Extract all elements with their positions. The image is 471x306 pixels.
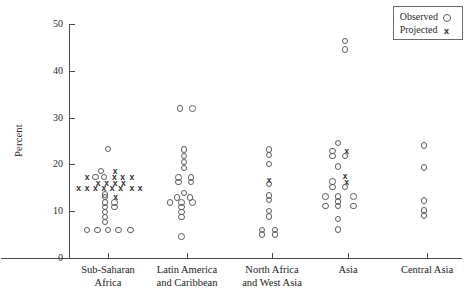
data-point-observed [189, 105, 196, 112]
data-point-observed [127, 227, 134, 234]
legend-entry-projected: Projected x [400, 23, 456, 36]
data-point-observed [188, 179, 195, 186]
data-point-observed [335, 216, 342, 223]
data-point-observed [259, 231, 266, 238]
y-axis-tick-label: 10 [25, 206, 63, 216]
x-axis-tick-label: Central Asia [379, 264, 471, 277]
data-point-observed [421, 197, 428, 204]
x-axis-tick-label: Latin America and Caribbean [139, 264, 235, 289]
data-point-observed [335, 203, 342, 210]
x-axis-tick [348, 253, 349, 258]
y-axis-tick [70, 164, 75, 165]
y-axis-tick-label: 50 [25, 19, 63, 29]
legend-label-projected: Projected [400, 24, 438, 35]
data-point-observed [177, 105, 184, 112]
x-axis-tick [187, 253, 188, 258]
data-point-projected: x [128, 184, 136, 192]
data-point-projected: x [108, 184, 116, 192]
data-point-observed [322, 203, 329, 210]
data-point-observed [105, 146, 112, 153]
data-point-observed [335, 140, 342, 147]
data-point-observed [342, 46, 349, 53]
data-point-observed [350, 203, 357, 210]
data-point-observed [175, 179, 182, 186]
data-point-observed [178, 214, 185, 221]
legend-symbol-circle-icon [438, 11, 456, 22]
data-point-observed [342, 184, 349, 191]
y-axis-tick-label: 20 [25, 159, 63, 169]
y-axis-title: Percent [13, 111, 24, 171]
data-point-observed [105, 227, 112, 234]
data-point-observed [342, 38, 349, 45]
legend-label-observed: Observed [400, 11, 438, 22]
data-point-projected: x [91, 184, 99, 192]
data-point-observed [421, 164, 428, 171]
legend-entry-observed: Observed [400, 10, 456, 23]
data-point-observed [102, 219, 109, 226]
data-point-observed [167, 199, 174, 206]
data-point-observed [94, 227, 101, 234]
data-point-observed [322, 193, 329, 200]
y-axis-tick [70, 71, 75, 72]
y-axis-tick-label: 30 [25, 113, 63, 123]
data-point-observed [329, 184, 336, 191]
data-point-observed [266, 197, 273, 204]
data-point-observed [84, 227, 91, 234]
y-axis-tick-label: 0 [25, 253, 63, 263]
data-point-observed [272, 231, 279, 238]
dot-plot-chart: Percent 01020304050 Sub-Saharan AfricaLa… [0, 0, 471, 306]
data-point-observed [181, 146, 188, 153]
data-point-observed [266, 161, 273, 168]
data-point-projected: x [128, 173, 136, 181]
data-point-observed [350, 193, 357, 200]
legend-symbol-cross-icon: x [437, 24, 455, 36]
data-point-observed [266, 213, 273, 220]
data-point-observed [189, 199, 196, 206]
y-axis-tick [70, 118, 75, 119]
data-point-observed [335, 163, 342, 170]
data-point-observed [266, 152, 273, 159]
data-point-projected: x [83, 173, 91, 181]
data-point-observed [181, 165, 188, 172]
data-point-observed [111, 204, 118, 211]
y-axis-tick [70, 24, 75, 25]
data-point-observed [178, 233, 185, 240]
x-axis-tick [427, 253, 428, 258]
data-point-projected: x [117, 184, 125, 192]
x-axis-tick [108, 253, 109, 258]
data-point-observed [115, 227, 122, 234]
data-point-observed [335, 226, 342, 233]
data-point-observed [421, 142, 428, 149]
data-point-projected: x [136, 184, 144, 192]
x-axis-tick [272, 253, 273, 258]
data-point-projected: x [75, 184, 83, 192]
data-point-observed [266, 181, 273, 188]
y-axis-tick [70, 211, 75, 212]
data-point-observed [421, 212, 428, 219]
legend: Observed Projected x [393, 6, 463, 40]
y-axis-tick [70, 258, 75, 259]
y-axis-line [69, 24, 70, 258]
data-point-observed [342, 153, 349, 160]
data-point-projected: x [83, 184, 91, 192]
data-point-observed [329, 153, 336, 160]
y-axis-tick-label: 40 [25, 66, 63, 76]
